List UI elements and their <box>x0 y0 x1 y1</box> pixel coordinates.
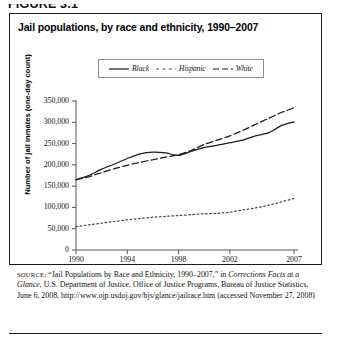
y-axis-tick-label: 300,000 <box>0 117 69 126</box>
bottom-rule-divider <box>9 333 322 334</box>
x-axis-tick-label: 1998 <box>157 255 201 264</box>
y-axis-tick-label: 250,000 <box>0 139 69 148</box>
figure-container: FIGURE 3.1 Jail populations, by race and… <box>0 0 340 340</box>
y-axis-tick-label: 200,000 <box>0 160 69 169</box>
x-axis-tick-label: 1994 <box>105 255 149 264</box>
series-line-black <box>76 122 294 180</box>
source-text-second: , U.S. Department of Justice, Office of … <box>17 280 315 299</box>
y-axis-tick-label: 150,000 <box>0 181 69 190</box>
y-axis-tick-label: 350,000 <box>0 96 69 105</box>
series-line-white <box>76 108 294 180</box>
source-lead-label: SOURCE: <box>17 271 46 278</box>
source-note: SOURCE: “Jail Populations by Race and Et… <box>17 270 322 301</box>
series-line-hispanic <box>76 198 294 226</box>
x-axis-tick-label: 2007 <box>272 255 316 264</box>
y-axis-tick-label: 100,000 <box>0 202 69 211</box>
y-axis-tick-label: 50,000 <box>0 224 69 233</box>
x-axis-tick-label: 1990 <box>54 255 98 264</box>
x-axis-tick-label: 2002 <box>208 255 252 264</box>
source-text-first: “Jail Populations by Race and Ethnicity,… <box>46 270 228 279</box>
y-axis-tick-label: 0 <box>0 245 69 254</box>
